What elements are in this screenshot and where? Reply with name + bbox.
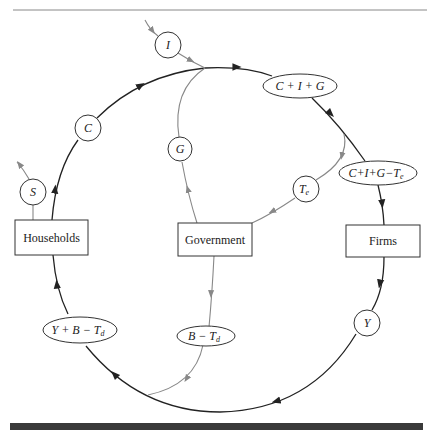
flow-y-to-disposable-income: [86, 334, 356, 412]
label-consumption: C: [84, 121, 93, 135]
node-indirect-taxes: Te: [293, 176, 319, 202]
flow-te-to-government: [252, 198, 295, 223]
households-box: Households: [15, 220, 88, 255]
flow-disposable-income-to-households: [53, 255, 68, 314]
flow-junction-to-cig: [205, 68, 272, 76]
node-income: Y: [354, 310, 380, 336]
flow-cigte-to-firms: [378, 185, 384, 225]
node-transfers-net-direct-tax: B − Td: [177, 326, 235, 346]
flow-s-out: [17, 162, 29, 179]
bottom-bar: [10, 423, 423, 430]
node-disposable-income: Y + B − Td: [43, 317, 117, 343]
flow-households-to-c: [52, 140, 78, 220]
flow-c-to-junction: [97, 68, 205, 118]
flow-government-to-btd: [209, 256, 214, 327]
arrow-te-government: [272, 211, 273, 212]
node-spending-net-indirect-tax: C+I+G−Te: [339, 161, 417, 185]
flow-government-to-g: [182, 162, 197, 223]
flow-cig-to-cigte: [312, 98, 365, 161]
firms-box: Firms: [346, 225, 420, 257]
circular-flow-diagram: I C + I + G C G S Te C+I+G−Te Households…: [0, 0, 435, 430]
label-spending-net-indirect-tax: C+I+G−Te: [348, 166, 404, 181]
arrow-c-junction: [140, 85, 141, 86]
arrow-bottom-yb: [114, 374, 115, 375]
node-investment: I: [155, 32, 181, 58]
arrow-i-junction: [190, 60, 191, 61]
label-firms: Firms: [369, 234, 397, 248]
flow-firms-to-y: [372, 257, 384, 310]
label-total-spending: C + I + G: [276, 79, 325, 93]
node-consumption: C: [75, 115, 101, 141]
node-government-spending: G: [168, 137, 192, 161]
arrow-cig-cigte: [330, 113, 331, 114]
label-disposable-income: Y + B − Td: [52, 323, 106, 338]
arrow-btd-bottom: [187, 378, 188, 379]
label-government-spending: G: [176, 142, 185, 156]
flow-i-to-junction: [178, 53, 205, 68]
label-households: Households: [23, 231, 80, 245]
flow-btd-to-bottom: [148, 345, 203, 395]
flow-into-i: [145, 20, 158, 36]
flow-g-to-junction: [178, 68, 205, 137]
label-savings: S: [30, 185, 36, 199]
node-savings: S: [20, 179, 46, 205]
government-box: Government: [178, 223, 252, 256]
arrow-s-out: [19, 164, 20, 165]
label-government: Government: [185, 233, 246, 247]
node-total-spending: C + I + G: [263, 74, 337, 98]
arrow-into-i: [152, 30, 153, 31]
